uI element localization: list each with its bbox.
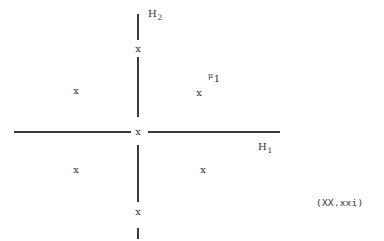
horizontal-axis-label-h1: H1 — [258, 141, 272, 152]
vertical-axis-label-h2: H2 — [148, 8, 162, 19]
mu1-annotation: μ1 — [208, 73, 220, 84]
h2-label-subscript: 2 — [157, 13, 162, 22]
h1-label-base: H — [258, 141, 267, 152]
mu1-subscript: 1 — [213, 73, 220, 84]
marker-origin: x — [135, 127, 141, 137]
marker-quadrant-lower-right: x — [200, 165, 206, 175]
figure-canvas: x x x x x x x H2 H1 μ1 (XX.xxi) — [0, 0, 384, 241]
vertical-axis-segment-2 — [137, 57, 139, 117]
marker-quadrant-upper-left: x — [73, 86, 79, 96]
marker-quadrant-lower-left: x — [73, 165, 79, 175]
horizontal-axis-segment-right — [148, 131, 280, 133]
marker-quadrant-upper-right: x — [196, 88, 202, 98]
marker-axis-lower: x — [135, 207, 141, 217]
marker-axis-upper: x — [135, 44, 141, 54]
vertical-axis-segment-3 — [137, 145, 139, 202]
vertical-axis-segment-1 — [137, 14, 139, 40]
h2-label-base: H — [148, 8, 157, 19]
equation-number: (XX.xxi) — [316, 197, 363, 208]
horizontal-axis-segment-left — [14, 131, 131, 133]
vertical-axis-segment-4 — [137, 228, 139, 239]
h1-label-subscript: 1 — [267, 146, 272, 155]
